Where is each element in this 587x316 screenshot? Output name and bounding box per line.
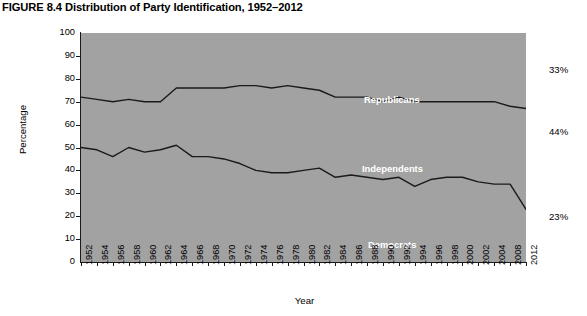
x-tick-label-1956: 1956 xyxy=(117,245,126,265)
x-tick-label-1982: 1982 xyxy=(323,245,332,265)
y-tick-mark xyxy=(76,56,80,57)
x-tick-mark xyxy=(510,263,511,266)
x-tick-label-1962: 1962 xyxy=(164,245,173,265)
x-tick-mark xyxy=(304,263,305,266)
x-tick-label-2012: 2012 xyxy=(530,245,539,265)
x-tick-mark xyxy=(288,263,289,266)
x-tick-label-1990: 1990 xyxy=(387,245,396,265)
x-tick-label-1954: 1954 xyxy=(101,245,110,265)
end-value-republicans: 33% xyxy=(549,64,568,75)
figure-container: FIGURE 8.4 Distribution of Party Identif… xyxy=(0,0,587,316)
y-tick-mark xyxy=(76,148,80,149)
x-tick-mark xyxy=(224,263,225,266)
x-tick-mark xyxy=(494,263,495,266)
x-tick-label-1972: 1972 xyxy=(244,245,253,265)
x-tick-label-1996: 1996 xyxy=(435,245,444,265)
x-tick-mark xyxy=(478,263,479,266)
x-tick-label-1952: 1952 xyxy=(85,245,94,265)
x-tick-label-1960: 1960 xyxy=(149,245,158,265)
x-tick-mark xyxy=(399,263,400,266)
x-tick-mark xyxy=(145,263,146,266)
x-tick-label-1984: 1984 xyxy=(339,245,348,265)
x-tick-label-2000: 2000 xyxy=(466,245,475,265)
x-tick-mark xyxy=(335,263,336,266)
x-tick-mark xyxy=(319,263,320,266)
x-tick-mark xyxy=(526,263,527,266)
x-tick-mark xyxy=(447,263,448,266)
x-tick-label-1992: 1992 xyxy=(403,245,412,265)
x-tick-mark xyxy=(415,263,416,266)
x-axis-tick-labels: 1952195419561958196019621964196619681970… xyxy=(0,0,587,316)
y-tick-mark xyxy=(76,170,80,171)
x-tick-mark xyxy=(176,263,177,266)
x-tick-mark xyxy=(192,263,193,266)
x-tick-mark xyxy=(383,263,384,266)
x-tick-mark xyxy=(97,263,98,266)
x-tick-mark xyxy=(160,263,161,266)
x-tick-label-2002: 2002 xyxy=(482,245,491,265)
x-tick-mark xyxy=(272,263,273,266)
y-tick-mark xyxy=(76,239,80,240)
y-tick-mark xyxy=(76,216,80,217)
x-tick-label-1968: 1968 xyxy=(212,245,221,265)
x-tick-label-1976: 1976 xyxy=(276,245,285,265)
x-tick-label-2004: 2004 xyxy=(498,245,507,265)
x-tick-label-1964: 1964 xyxy=(180,245,189,265)
end-value-independents: 44% xyxy=(549,126,568,137)
x-tick-label-1994: 1994 xyxy=(419,245,428,265)
end-value-democrats: 23% xyxy=(549,211,568,222)
y-tick-mark xyxy=(76,125,80,126)
x-tick-label-1970: 1970 xyxy=(228,245,237,265)
x-axis-title: Year xyxy=(0,295,587,306)
x-tick-mark xyxy=(113,263,114,266)
x-tick-mark xyxy=(367,263,368,266)
y-tick-mark xyxy=(76,193,80,194)
x-tick-mark xyxy=(208,263,209,266)
x-tick-label-1988: 1988 xyxy=(371,245,380,265)
x-tick-label-1958: 1958 xyxy=(133,245,142,265)
x-tick-mark xyxy=(81,263,82,266)
y-tick-mark xyxy=(76,102,80,103)
x-tick-label-1978: 1978 xyxy=(292,245,301,265)
x-tick-label-1980: 1980 xyxy=(308,245,317,265)
x-tick-mark xyxy=(240,263,241,266)
x-tick-mark xyxy=(431,263,432,266)
x-tick-label-1974: 1974 xyxy=(260,245,269,265)
x-tick-label-1986: 1986 xyxy=(355,245,364,265)
y-tick-mark xyxy=(76,79,80,80)
x-tick-mark xyxy=(351,263,352,266)
x-tick-mark xyxy=(129,263,130,266)
x-tick-mark xyxy=(256,263,257,266)
x-tick-label-1998: 1998 xyxy=(451,245,460,265)
x-tick-label-1966: 1966 xyxy=(196,245,205,265)
x-tick-mark xyxy=(462,263,463,266)
x-tick-label-2008: 2008 xyxy=(514,245,523,265)
